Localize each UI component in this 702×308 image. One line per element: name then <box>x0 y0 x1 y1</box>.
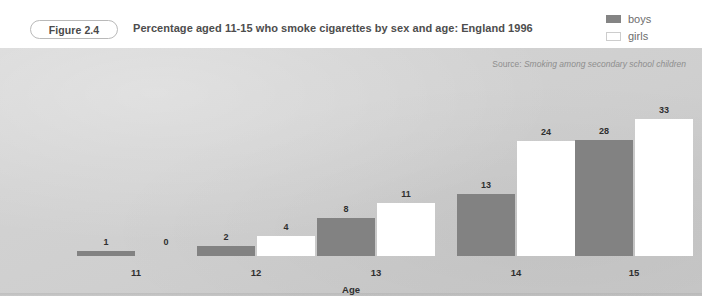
bar-value-boys-11: 1 <box>77 237 135 247</box>
chart-legend: boys girls <box>606 12 692 46</box>
figure-number-badge: Figure 2.4 <box>30 20 118 39</box>
legend-swatch-girls-icon <box>606 32 621 41</box>
axis-tick-11: 11 <box>77 267 195 278</box>
axis-tick-12: 12 <box>197 267 315 278</box>
bar-value-girls-15: 33 <box>635 105 693 115</box>
bar-boys-13 <box>317 218 375 256</box>
bar-girls-14 <box>517 141 575 256</box>
bar-value-girls-13: 11 <box>377 189 435 199</box>
page-bottom-margin <box>0 296 702 308</box>
bar-boys-12 <box>197 246 255 256</box>
bar-value-boys-14: 13 <box>457 180 515 190</box>
axis-tick-15: 15 <box>575 267 693 278</box>
figure-screenshot: Figure 2.4 Percentage aged 11-15 who smo… <box>0 0 702 308</box>
legend-item-boys: boys <box>606 12 692 26</box>
bar-value-girls-14: 24 <box>517 127 575 137</box>
x-axis-title: Age <box>0 284 702 295</box>
source-note: Source: Smoking among secondary school c… <box>492 59 686 69</box>
bar-girls-12 <box>257 236 315 256</box>
page-title: Percentage aged 11-15 who smoke cigarett… <box>133 22 533 34</box>
source-prefix: Source: <box>492 59 521 69</box>
figure-header: Figure 2.4 Percentage aged 11-15 who smo… <box>0 0 702 48</box>
bar-plot-area: 1 0 11 2 4 12 <box>0 48 702 296</box>
legend-label-girls: girls <box>628 30 648 42</box>
bar-girls-13 <box>377 203 435 256</box>
legend-label-boys: boys <box>628 13 651 25</box>
legend-item-girls: girls <box>606 29 692 43</box>
bar-boys-11 <box>77 251 135 256</box>
legend-swatch-boys-icon <box>606 15 621 23</box>
bar-value-boys-15: 28 <box>575 126 633 136</box>
axis-tick-14: 14 <box>457 267 575 278</box>
source-text: Smoking among secondary school children <box>522 59 686 69</box>
bar-boys-15 <box>575 140 633 256</box>
bar-value-boys-12: 2 <box>197 232 255 242</box>
bar-value-girls-11: 0 <box>137 237 195 247</box>
axis-tick-13: 13 <box>317 267 435 278</box>
bar-value-girls-12: 4 <box>257 222 315 232</box>
bar-girls-15 <box>635 119 693 256</box>
figure-number-label: Figure 2.4 <box>49 24 100 36</box>
chart-panel: Source: Smoking among secondary school c… <box>0 48 702 296</box>
bar-boys-14 <box>457 194 515 256</box>
bar-value-boys-13: 8 <box>317 204 375 214</box>
